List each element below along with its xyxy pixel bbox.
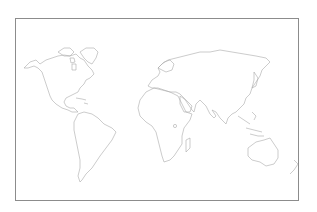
map-frame: [16, 19, 299, 201]
world-map: [0, 0, 317, 212]
